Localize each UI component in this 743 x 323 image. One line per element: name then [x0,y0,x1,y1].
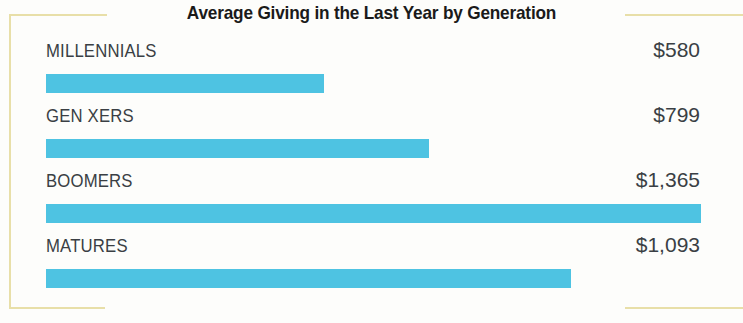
bar-track [46,74,701,93]
chart-plot-area: MILLENNIALS $580 GEN XERS $799 BOOMERS $… [0,38,743,323]
category-label: BOOMERS [46,170,133,192]
chart-figure: Average Giving in the Last Year by Gener… [0,0,743,323]
value-label: $580 [653,38,700,62]
category-label: GEN XERS [46,105,134,127]
bar-fill [46,74,324,93]
value-label: $1,365 [636,168,700,192]
bar-track [46,139,701,158]
bar-fill [46,269,571,288]
chart-title: Average Giving in the Last Year by Gener… [26,2,717,24]
value-label: $799 [653,103,700,127]
bar-fill [46,139,429,158]
bar-track [46,204,701,223]
value-label: $1,093 [636,233,700,257]
bar-row: BOOMERS $1,365 [0,168,743,233]
bar-row: GEN XERS $799 [0,103,743,168]
bar-row-header: MATURES $1,093 [46,233,700,267]
bar-track [46,269,701,288]
category-label: MILLENNIALS [46,40,157,62]
bar-row-header: MILLENNIALS $580 [46,38,700,72]
bar-row-header: BOOMERS $1,365 [46,168,700,202]
bar-row: MILLENNIALS $580 [0,38,743,103]
bar-fill [46,204,701,223]
category-label: MATURES [46,235,128,257]
bar-row-header: GEN XERS $799 [46,103,700,137]
bar-row: MATURES $1,093 [0,233,743,298]
